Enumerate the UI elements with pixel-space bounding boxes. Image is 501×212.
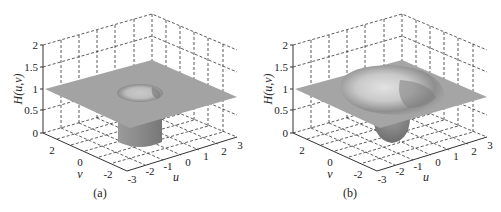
plot-a: 2 1.5 1 0.5 0 H(u,v) 2 0 -2 v -3 -2 -1 0… <box>0 0 250 212</box>
u-tick-2: 2 <box>221 145 227 157</box>
v-tick-neg2: -2 <box>353 168 362 180</box>
z-axis-label: H(u,v) <box>11 74 25 106</box>
u-axis-label: u <box>173 170 179 184</box>
caption-a: (a) <box>80 186 120 201</box>
v-tick-2: 2 <box>299 144 305 156</box>
z-tick-0.5: 0.5 <box>24 104 38 116</box>
u-tick-neg2: -2 <box>145 165 154 177</box>
z-tick-1: 1 <box>283 83 289 95</box>
z-tick-0: 0 <box>283 127 289 139</box>
u-tick-3: 3 <box>237 139 243 151</box>
u-tick-2: 2 <box>471 145 477 157</box>
z-tick-1.5: 1.5 <box>274 61 288 73</box>
z-tick-0: 0 <box>33 127 39 139</box>
v-axis-label: v <box>327 167 333 181</box>
z-tick-2: 2 <box>283 39 289 51</box>
u-tick-1: 1 <box>453 150 459 162</box>
u-tick-neg3: -3 <box>377 173 387 185</box>
z-tick-1: 1 <box>33 83 39 95</box>
panel-b-gaussian-notch: 2 1.5 1 0.5 0 H(u,v) 2 0 -2 v -3 -2 -1 0… <box>250 0 500 212</box>
z-axis-label: H(u,v) <box>261 74 275 106</box>
plot-b: 2 1.5 1 0.5 0 H(u,v) 2 0 -2 v -3 -2 -1 0… <box>250 0 500 212</box>
panel-a-ideal-notch: 2 1.5 1 0.5 0 H(u,v) 2 0 -2 v -3 -2 -1 0… <box>0 0 250 212</box>
v-axis-label: v <box>77 167 83 181</box>
u-tick-neg1: -1 <box>413 160 422 172</box>
u-tick-3: 3 <box>487 139 493 151</box>
z-tick-0.5: 0.5 <box>274 104 288 116</box>
z-tick-2: 2 <box>33 39 39 51</box>
v-tick-2: 2 <box>49 144 55 156</box>
u-tick-neg2: -2 <box>395 165 404 177</box>
u-tick-neg3: -3 <box>127 173 137 185</box>
u-tick-0: 0 <box>435 156 441 168</box>
v-tick-neg2: -2 <box>103 168 112 180</box>
u-axis-label: u <box>423 170 429 184</box>
caption-b: (b) <box>330 186 370 201</box>
u-tick-neg1: -1 <box>163 160 172 172</box>
z-tick-1.5: 1.5 <box>24 61 38 73</box>
u-tick-1: 1 <box>203 150 209 162</box>
figure: 2 1.5 1 0.5 0 H(u,v) 2 0 -2 v -3 -2 -1 0… <box>0 0 501 212</box>
u-tick-0: 0 <box>185 156 191 168</box>
